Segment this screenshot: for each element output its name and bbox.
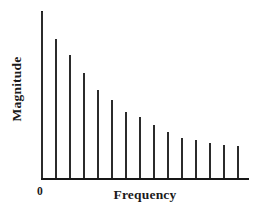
stem-bar [69,55,71,178]
stem-bar [41,12,43,178]
stem-bar [55,39,57,178]
stem-bar [83,73,85,178]
stem-bar [181,138,183,178]
stem-bar [125,112,127,178]
x-axis-line [41,178,249,180]
stem-bar [153,125,155,178]
x-axis-label: Frequency [41,187,249,203]
stem-bar [209,143,211,178]
stem-bar [167,132,169,178]
stem-bar [237,146,239,178]
stem-bar [223,145,225,178]
spectrum-figure: Magnitude 0 Frequency [0,0,265,224]
stem-bar [195,140,197,178]
stem-bar [97,90,99,178]
stem-bar [111,100,113,178]
stem-bar [139,117,141,178]
